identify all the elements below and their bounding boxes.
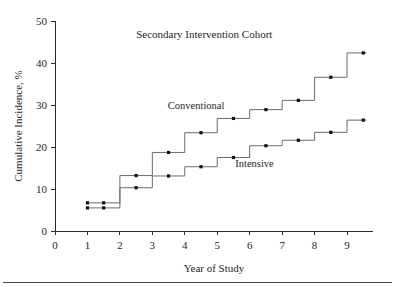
data-point-conventional	[86, 201, 89, 204]
x-tick-label: 0	[52, 239, 58, 251]
y-axis-tick-labels: 01020304050	[36, 15, 48, 237]
data-point-intensive	[297, 139, 300, 142]
step-line-conventional	[87, 53, 366, 203]
data-point-intensive	[362, 119, 365, 122]
data-point-conventional	[232, 117, 235, 120]
x-tick-label: 7	[279, 239, 285, 251]
data-point-intensive	[167, 174, 170, 177]
data-point-intensive	[329, 131, 332, 134]
x-tick-label: 2	[117, 239, 123, 251]
series-label-intensive: Intensive	[235, 158, 274, 169]
y-tick-label: 20	[36, 141, 48, 153]
data-point-conventional	[167, 151, 170, 154]
x-axis-tick-labels: 0123456789	[52, 239, 350, 251]
x-axis-ticks	[55, 231, 347, 235]
data-point-conventional	[199, 131, 202, 134]
y-tick-label: 10	[36, 183, 48, 195]
data-point-conventional	[102, 201, 105, 204]
x-tick-label: 5	[214, 239, 220, 251]
data-point-intensive	[264, 144, 267, 147]
data-point-conventional	[362, 51, 365, 54]
y-tick-label: 40	[36, 57, 48, 69]
y-axis-ticks	[51, 21, 55, 231]
data-point-intensive	[135, 186, 138, 189]
y-tick-label: 0	[42, 225, 48, 237]
cumulative-incidence-chart: 01020304050 0123456789 Secondary Interve…	[0, 0, 395, 287]
y-tick-label: 50	[36, 15, 48, 27]
figure-container: 01020304050 0123456789 Secondary Interve…	[0, 0, 395, 287]
series-data-markers	[86, 51, 365, 209]
data-point-intensive	[86, 206, 89, 209]
x-tick-label: 4	[182, 239, 188, 251]
series-label-conventional: Conventional	[168, 100, 225, 111]
data-point-conventional	[264, 108, 267, 111]
data-point-intensive	[199, 165, 202, 168]
x-tick-label: 9	[344, 239, 350, 251]
x-tick-label: 3	[150, 239, 156, 251]
data-point-conventional	[297, 99, 300, 102]
x-tick-label: 8	[312, 239, 318, 251]
y-tick-label: 30	[36, 99, 48, 111]
series-step-lines	[87, 53, 366, 208]
x-tick-label: 1	[85, 239, 91, 251]
chart-title: Secondary Intervention Cohort	[136, 28, 272, 40]
data-point-conventional	[329, 76, 332, 79]
data-point-intensive	[102, 206, 105, 209]
y-axis-title: Cumulative Incidence, %	[12, 70, 24, 182]
x-axis-title: Year of Study	[184, 262, 245, 274]
step-line-intensive	[87, 120, 366, 208]
data-point-conventional	[135, 174, 138, 177]
x-tick-label: 6	[247, 239, 253, 251]
